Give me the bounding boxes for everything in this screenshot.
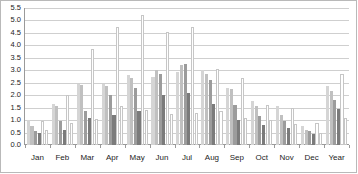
- bar: [205, 74, 208, 145]
- x-axis-ticks: [25, 145, 349, 149]
- bar: [91, 49, 94, 145]
- bar: [287, 128, 290, 145]
- bar: [130, 78, 133, 145]
- bar-group: [150, 8, 175, 145]
- bar: [291, 108, 294, 145]
- y-axis-tick-label: 0.0: [1, 141, 21, 149]
- bar: [294, 124, 297, 145]
- bar: [166, 32, 169, 145]
- x-axis-label: Year: [324, 151, 349, 167]
- x-axis-tick: [75, 145, 76, 148]
- x-axis-tick: [25, 145, 26, 148]
- bar: [120, 106, 123, 145]
- bar: [212, 104, 215, 145]
- y-axis-tick-label: 5.0: [1, 16, 21, 24]
- bar: [219, 111, 222, 145]
- x-axis-label: Jun: [150, 151, 175, 167]
- bar: [55, 106, 58, 145]
- x-axis-tick: [274, 145, 275, 148]
- bar: [102, 84, 105, 145]
- x-axis-tick: [175, 145, 176, 148]
- bar-group: [274, 8, 299, 145]
- x-axis-tick: [199, 145, 200, 148]
- bar: [63, 130, 66, 145]
- bar: [251, 101, 254, 145]
- bar: [262, 125, 265, 145]
- bar: [38, 133, 41, 145]
- bar: [280, 115, 283, 145]
- bar-group: [199, 8, 224, 145]
- bar: [176, 72, 179, 145]
- bar: [241, 78, 244, 145]
- y-axis-tick-label: 2.5: [1, 79, 21, 87]
- bar: [112, 115, 115, 145]
- bar: [269, 120, 272, 145]
- bar-group: [25, 8, 50, 145]
- bar-group: [249, 8, 274, 145]
- bar: [170, 114, 173, 145]
- bar: [237, 120, 240, 145]
- bar: [276, 106, 279, 145]
- bar-groups: [25, 8, 349, 145]
- x-axis-label: Jan: [25, 151, 50, 167]
- bar: [258, 116, 261, 145]
- bar: [84, 111, 87, 145]
- bar: [180, 65, 183, 145]
- bar: [301, 126, 304, 145]
- x-axis-label: Apr: [100, 151, 125, 167]
- x-axis-labels: JanFebMarAprMayJunJulAugSepOctNovDecYear: [25, 151, 349, 167]
- x-axis-label: Nov: [274, 151, 299, 167]
- bar: [109, 95, 112, 145]
- bar: [52, 104, 55, 145]
- bar: [184, 64, 187, 145]
- x-axis-label: Jul: [175, 151, 200, 167]
- x-axis-label: May: [125, 151, 150, 167]
- x-axis-tick: [224, 145, 225, 148]
- y-axis-tick-label: 1.5: [1, 104, 21, 112]
- bar: [315, 123, 318, 145]
- bar: [116, 27, 119, 145]
- y-axis-tick-label: 0.5: [1, 129, 21, 137]
- x-axis-tick: [100, 145, 101, 148]
- bar-group: [125, 8, 150, 145]
- bar: [159, 74, 162, 145]
- bar: [88, 118, 91, 145]
- x-axis-label: Sep: [224, 151, 249, 167]
- x-axis-label: Mar: [75, 151, 100, 167]
- bar-chart: 5.55.04.54.03.53.02.52.01.51.00.50.0 Jan…: [0, 0, 358, 174]
- x-axis-tick: [299, 145, 300, 148]
- bar: [230, 89, 233, 145]
- bar: [333, 100, 336, 145]
- bar: [312, 134, 315, 145]
- bar: [95, 119, 98, 145]
- bar: [319, 133, 322, 145]
- bar: [340, 74, 343, 145]
- bar: [155, 70, 158, 145]
- bar: [30, 126, 33, 145]
- bar: [134, 88, 137, 145]
- bar: [187, 93, 190, 145]
- bar-group: [75, 8, 100, 145]
- bar: [337, 109, 340, 145]
- bar: [233, 105, 236, 145]
- x-axis-tick: [150, 145, 151, 148]
- bar: [308, 131, 311, 145]
- y-axis-tick-label: 3.0: [1, 66, 21, 74]
- y-axis-tick-label: 5.5: [1, 4, 21, 12]
- bar: [66, 95, 69, 145]
- bar: [27, 120, 30, 145]
- x-axis-label: Oct: [249, 151, 274, 167]
- bar: [59, 121, 62, 145]
- bar: [127, 75, 130, 145]
- bar: [255, 106, 258, 145]
- bar: [195, 113, 198, 145]
- bar: [326, 86, 329, 145]
- bar: [283, 121, 286, 145]
- bar: [344, 118, 347, 145]
- bar: [191, 27, 194, 145]
- bar: [70, 123, 73, 145]
- bar: [244, 118, 247, 145]
- bar: [216, 69, 219, 145]
- bar: [105, 86, 108, 145]
- x-axis-label: Dec: [299, 151, 324, 167]
